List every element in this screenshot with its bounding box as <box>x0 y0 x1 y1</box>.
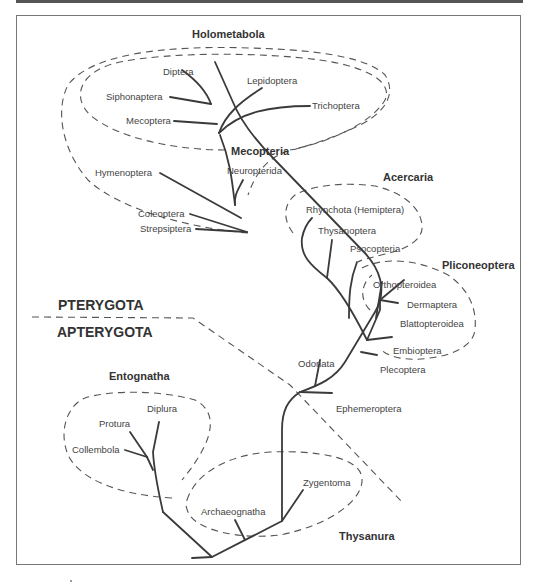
taxon-diptera: Diptera <box>163 66 194 77</box>
taxon-rhynchota: Rhynchota (Hemiptera) <box>306 204 404 215</box>
acercaria-stem <box>327 278 367 340</box>
blattopteroidea-branch <box>380 300 398 303</box>
taxon-odonata: Odonata <box>298 358 335 369</box>
acercaria-label: Acercaria <box>383 171 434 183</box>
archaeognatha-branch <box>235 520 245 540</box>
taxon-strepsiptera: Strepsiptera <box>140 223 192 234</box>
footnote-mark <box>70 580 72 582</box>
taxon-dermaptera: Dermaptera <box>407 299 458 310</box>
taxon-psocopteria: Psocopteria <box>350 243 401 254</box>
thysanoptera-branch <box>327 240 332 278</box>
taxon-protura: Protura <box>99 418 131 429</box>
ephemeroptera-branch <box>300 392 332 393</box>
taxon-hymenoptera: Hymenoptera <box>95 167 153 178</box>
collembola-protura-stem <box>147 457 153 470</box>
taxon-coleoptera: Coleoptera <box>138 208 185 219</box>
zygentoma-branch <box>282 490 303 521</box>
neuropterida-branch <box>235 180 243 205</box>
taxon-siphonaptera: Siphonaptera <box>106 91 163 102</box>
taxon-orthopteroidea: Orthopteroidea <box>373 279 437 290</box>
taxon-mecoptera: Mecoptera <box>126 115 172 126</box>
pliconeoptera-label: Pliconeoptera <box>442 259 516 271</box>
thysanura-outline <box>186 452 362 537</box>
entognatha-stem <box>163 512 212 557</box>
taxon-blattopteroidea: Blattopteroidea <box>400 318 465 329</box>
root-branch <box>192 392 300 558</box>
taxon-neuropterida: Neuropterida <box>227 165 283 176</box>
taxon-plecoptera: Plecoptera <box>380 364 426 375</box>
holometabola-label: Holometabola <box>192 28 266 40</box>
entognatha-trunk <box>153 422 163 512</box>
entognatha-label: Entognatha <box>109 370 170 382</box>
taxon-archaeognatha: Archaeognatha <box>201 506 266 517</box>
taxon-thysanoptera: Thysanoptera <box>318 225 377 236</box>
taxon-zygentoma: Zygentoma <box>303 477 351 488</box>
taxon-trichoptera: Trichoptera <box>312 100 360 111</box>
pterygota-label: PTERYGOTA <box>58 297 144 313</box>
apterygota-label: APTERYGOTA <box>57 324 153 340</box>
phylogeny-diagram: PTERYGOTA APTERYGOTA Holometabola Mecopt… <box>0 0 535 585</box>
mecopteria-label: Mecopteria <box>231 145 290 157</box>
siphonaptera-branch <box>170 97 211 104</box>
taxon-ephemeroptera: Ephemeroptera <box>336 403 402 414</box>
thysanura-label: Thysanura <box>339 530 396 542</box>
taxon-lepidoptera: Lepidoptera <box>247 75 298 86</box>
mecoptera-branch <box>174 121 217 124</box>
taxon-diplura: Diplura <box>147 403 178 414</box>
embioptera-branch <box>367 337 392 340</box>
plecoptera-branch <box>361 352 377 355</box>
taxon-embioptera: Embioptera <box>393 345 442 356</box>
taxon-collembola: Collembola <box>72 444 120 455</box>
